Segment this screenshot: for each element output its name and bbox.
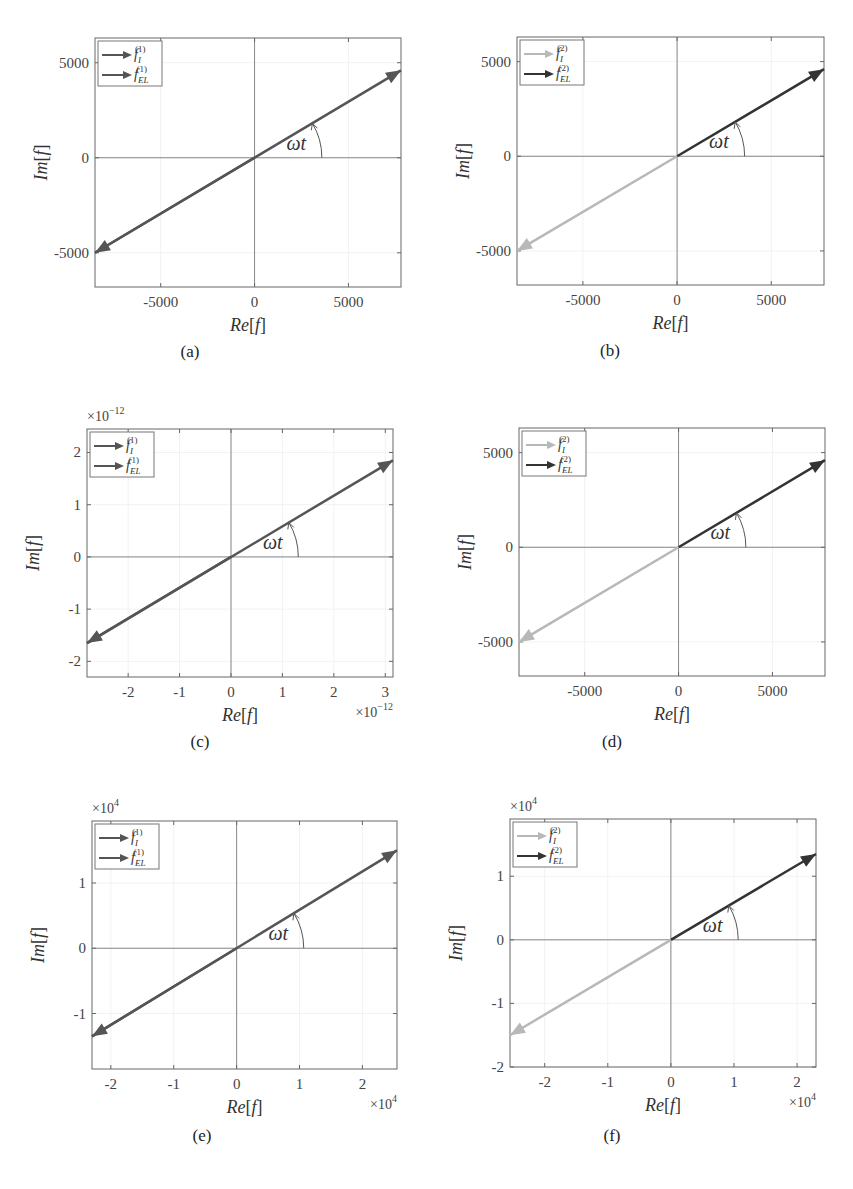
y-tick-label: 1 <box>79 875 87 891</box>
svg-text:Re[f]: Re[f] <box>226 1097 263 1117</box>
x-tick-label: 0 <box>675 683 683 699</box>
axes-frame <box>517 37 824 285</box>
svg-text:Re[f]: Re[f] <box>221 705 258 725</box>
angle-arc <box>735 122 744 156</box>
x-tick-label: -2 <box>122 684 135 700</box>
axes-frame <box>87 429 393 677</box>
legend-entry: fEL(1) <box>134 64 148 85</box>
y-tick-label: -5000 <box>478 634 513 650</box>
plot-c: -2-10123-2-1012Re[f]Im[f]×10−12×10−12ωtf… <box>23 405 393 725</box>
axes-frame <box>510 819 816 1067</box>
omega-t-label: ωt <box>709 130 729 152</box>
legend <box>90 432 154 477</box>
omega-t-label: ωt <box>710 521 730 543</box>
legend-entry: fEL(2) <box>558 454 572 475</box>
x-tick-label: -5000 <box>567 683 602 699</box>
angle-arc <box>729 906 738 940</box>
legend-entry: fEL(2) <box>556 63 570 84</box>
x-tick-label: 0 <box>251 294 259 310</box>
svg-text:×104: ×104 <box>510 795 537 814</box>
y-tick-label: 0 <box>74 549 82 565</box>
y-tick-label: 1 <box>74 497 82 513</box>
caption-d: (d) <box>582 732 642 752</box>
y-tick-label: 0 <box>82 150 90 166</box>
x-tick-label: -5000 <box>565 292 600 308</box>
chart-panel-c: -2-10123-2-1012Re[f]Im[f]×10−12×10−12ωtf… <box>0 0 853 1189</box>
x-tick-label: -1 <box>602 1074 615 1090</box>
svg-text:Im[f]: Im[f] <box>455 534 475 571</box>
y-tick-label: -1 <box>74 1006 87 1022</box>
x-tick-label: 1 <box>730 1074 738 1090</box>
axes-frame <box>519 428 825 676</box>
x-tick-label: 3 <box>382 684 390 700</box>
y-tick-label: 0 <box>79 940 87 956</box>
legend <box>522 431 586 476</box>
x-tick-label: -1 <box>173 684 186 700</box>
y-tick-label: -5000 <box>54 245 89 261</box>
x-tick-label: -2 <box>105 1076 118 1092</box>
x-tick-label: 1 <box>296 1076 304 1092</box>
y-tick-label: 5000 <box>483 445 513 461</box>
x-tick-label: -1 <box>168 1076 181 1092</box>
angle-arc <box>289 522 298 556</box>
x-tick-label: 5000 <box>333 294 363 310</box>
y-tick-label: -2 <box>492 1059 505 1075</box>
chart-panel-d: -500005000-500005000Re[f]Im[f]ωtfI(2)fEL… <box>0 0 853 1189</box>
legend-entry: fEL(2) <box>549 845 563 866</box>
chart-panel-e: -2-1012-101Re[f]Im[f]×104×104ωtfI(1)fEL(… <box>0 0 853 1189</box>
legend-entry: fEL(1) <box>126 455 140 476</box>
x-tick-label: -2 <box>538 1074 551 1090</box>
svg-text:Re[f]: Re[f] <box>653 704 690 724</box>
svg-text:Re[f]: Re[f] <box>229 315 266 335</box>
svg-text:×104: ×104 <box>370 1093 397 1112</box>
y-tick-label: 5000 <box>59 55 89 71</box>
y-tick-label: -2 <box>69 653 82 669</box>
chart-panel-b: -500005000-500005000Re[f]Im[f]ωtfI(2)fEL… <box>0 0 853 1189</box>
omega-t-label: ωt <box>268 922 288 944</box>
svg-text:×104: ×104 <box>789 1091 816 1110</box>
svg-text:Im[f]: Im[f] <box>446 925 466 962</box>
caption-b: (b) <box>580 341 640 361</box>
y-tick-label: 0 <box>504 148 512 164</box>
caption-a: (a) <box>160 342 220 362</box>
x-tick-label: 0 <box>233 1076 241 1092</box>
x-tick-label: 0 <box>227 684 235 700</box>
x-tick-label: 2 <box>359 1076 367 1092</box>
caption-f: (f) <box>582 1126 642 1146</box>
caption-e: (e) <box>172 1126 232 1146</box>
x-tick-label: 2 <box>793 1074 801 1090</box>
y-tick-label: 0 <box>497 932 505 948</box>
svg-text:Re[f]: Re[f] <box>644 1095 681 1115</box>
svg-text:×104: ×104 <box>92 797 119 816</box>
y-tick-label: 1 <box>497 868 505 884</box>
axes-frame <box>95 38 401 287</box>
angle-arc <box>294 913 304 948</box>
svg-text:Im[f]: Im[f] <box>31 144 51 181</box>
plot-b: -500005000-500005000Re[f]Im[f]ωtfI(2)fEL… <box>453 37 824 333</box>
y-tick-label: 0 <box>506 539 514 555</box>
y-tick-label: -5000 <box>476 243 511 259</box>
axes-frame <box>92 821 397 1069</box>
legend-entry: fI(1) <box>126 435 137 456</box>
angle-arc <box>736 513 745 547</box>
svg-text:×10−12: ×10−12 <box>355 701 393 720</box>
omega-t-label: ωt <box>263 531 283 553</box>
svg-text:Im[f]: Im[f] <box>23 535 43 572</box>
caption-c: (c) <box>170 732 230 752</box>
x-tick-label: 5000 <box>756 292 786 308</box>
legend <box>98 41 162 86</box>
legend <box>513 822 577 867</box>
svg-text:Im[f]: Im[f] <box>453 143 473 180</box>
plot-a: -500005000-500005000Re[f]Im[f]ωtfI(1)fEL… <box>31 38 401 335</box>
plot-e: -2-1012-101Re[f]Im[f]×104×104ωtfI(1)fEL(… <box>28 797 397 1117</box>
legend <box>95 824 159 869</box>
legend-entry: fI(2) <box>558 434 569 455</box>
x-tick-label: 0 <box>673 292 681 308</box>
y-tick-label: -1 <box>492 995 505 1011</box>
legend-entry: fI(1) <box>131 827 142 848</box>
plot-d: -500005000-500005000Re[f]Im[f]ωtfI(2)fEL… <box>455 428 825 724</box>
x-tick-label: 0 <box>667 1074 675 1090</box>
omega-t-label: ωt <box>703 914 723 936</box>
svg-text:Re[f]: Re[f] <box>652 313 689 333</box>
x-tick-label: 1 <box>279 684 287 700</box>
